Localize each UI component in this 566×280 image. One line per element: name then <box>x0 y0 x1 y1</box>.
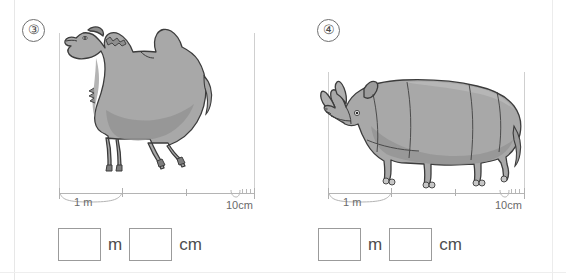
answer-box-centimeters-4[interactable] <box>389 228 432 261</box>
scale-minor-tick-3-4 <box>519 189 520 193</box>
camel-illustration <box>58 10 258 195</box>
rhinoceros-illustration <box>311 64 536 192</box>
scale-label-10cm-4: 10cm <box>495 199 522 211</box>
worksheet-page: ③ <box>0 0 566 280</box>
answer-box-centimeters-3[interactable] <box>129 228 172 261</box>
problem-number-3: ③ <box>22 19 45 42</box>
scale-minor-tick-2-3 <box>246 189 247 193</box>
unit-label-meters-3: m <box>108 236 122 253</box>
answer-row-4: m cm <box>318 228 462 261</box>
scale-minor-tick-2-4 <box>515 189 516 193</box>
problem-panel-4: ④ <box>283 0 566 280</box>
problem-number-4: ④ <box>317 19 340 42</box>
scale-minor-tick-1-4 <box>511 189 512 193</box>
answer-box-meters-3[interactable] <box>58 228 101 261</box>
scale-label-1m-3: 1 m <box>74 196 92 208</box>
unit-label-meters-4: m <box>368 236 382 253</box>
unit-label-centimeters-4: cm <box>439 236 462 253</box>
answer-box-meters-4[interactable] <box>318 228 361 261</box>
problem-panel-3: ③ <box>0 0 283 280</box>
scale-tick-2m-3 <box>186 189 187 196</box>
unit-label-centimeters-3: cm <box>179 236 202 253</box>
scale-brace-10cm-3 <box>230 190 256 199</box>
scale-brace-10cm-4 <box>499 190 525 199</box>
scale-label-10cm-3: 10cm <box>226 199 253 211</box>
answer-row-3: m cm <box>58 228 202 261</box>
scale-minor-tick-3-3 <box>250 189 251 193</box>
scale-tick-2m-4 <box>455 189 456 196</box>
scale-minor-tick-1-3 <box>242 189 243 193</box>
scale-label-1m-4: 1 m <box>343 196 361 208</box>
